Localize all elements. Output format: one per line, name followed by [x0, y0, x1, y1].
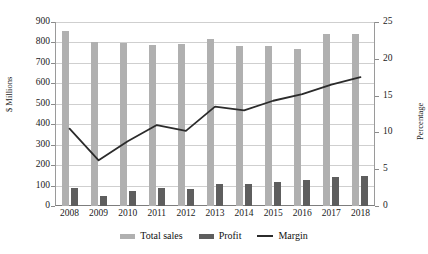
- x-axis-tick-label: 2018: [346, 208, 375, 219]
- y-axis-left-tick-label: 600: [20, 78, 50, 88]
- x-axis-tick-label: 2012: [171, 208, 200, 219]
- y-axis-right-tick-label: 0: [383, 201, 409, 211]
- legend-label: Profit: [219, 231, 242, 241]
- x-axis-tick-label: 2008: [55, 208, 84, 219]
- margin-line-series: [55, 22, 375, 206]
- chart-container: $ Millions Percentage 010020030040050060…: [0, 0, 428, 254]
- y-axis-right-tick-mark: [375, 132, 379, 133]
- y-axis-right-title: Percentage: [415, 103, 425, 140]
- y-axis-left-tick-label: 800: [20, 37, 50, 47]
- y-axis-right-tick-mark: [375, 169, 379, 170]
- y-axis-left-tick-label: 100: [20, 181, 50, 191]
- y-axis-left-tick-label: 400: [20, 119, 50, 129]
- y-axis-left-tick-label: 700: [20, 58, 50, 68]
- x-axis-tick-label: 2017: [317, 208, 346, 219]
- x-axis-tick-label: 2013: [200, 208, 229, 219]
- legend-bar-swatch-icon: [199, 234, 214, 239]
- y-axis-left-tick-label: 500: [20, 99, 50, 109]
- y-axis-left-tick-mark: [51, 206, 55, 207]
- y-axis-left-tick-label: 200: [20, 160, 50, 170]
- legend-item[interactable]: Profit: [199, 231, 242, 241]
- y-axis-right-tick-label: 25: [383, 17, 409, 27]
- x-axis-tick-label: 2015: [259, 208, 288, 219]
- y-axis-right-tick-label: 5: [383, 164, 409, 174]
- y-axis-right-tick-label: 20: [383, 54, 409, 64]
- y-axis-right-tick-label: 15: [383, 91, 409, 101]
- chart-legend: Total salesProfitMargin: [0, 231, 428, 241]
- legend-item[interactable]: Total sales: [120, 231, 182, 241]
- y-axis-left-tick-label: 900: [20, 17, 50, 27]
- y-axis-right-tick-label: 10: [383, 127, 409, 137]
- y-axis-left-tick-label: 0: [20, 201, 50, 211]
- y-axis-right-tick-mark: [375, 22, 379, 23]
- y-axis-right-tick-mark: [375, 59, 379, 60]
- x-axis-tick-label: 2010: [113, 208, 142, 219]
- legend-bar-swatch-icon: [120, 234, 135, 239]
- margin-line-path: [70, 77, 361, 160]
- x-axis-tick-label: 2009: [84, 208, 113, 219]
- y-axis-left-tick-label: 300: [20, 140, 50, 150]
- y-axis-right-tick-mark: [375, 96, 379, 97]
- x-axis-tick-label: 2011: [142, 208, 171, 219]
- legend-item[interactable]: Margin: [257, 231, 307, 241]
- x-axis-tick-label: 2014: [230, 208, 259, 219]
- y-axis-left-title: $ Millions: [4, 77, 14, 112]
- plot-area: [55, 22, 375, 206]
- y-axis-right-tick-mark: [375, 206, 379, 207]
- legend-line-swatch-icon: [257, 235, 273, 237]
- legend-label: Total sales: [140, 231, 182, 241]
- x-axis-tick-label: 2016: [288, 208, 317, 219]
- legend-label: Margin: [278, 231, 307, 241]
